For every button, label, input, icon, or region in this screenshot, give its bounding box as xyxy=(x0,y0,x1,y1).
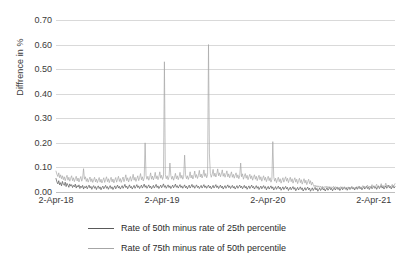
y-axis-tick-labels: 0.700.600.500.400.300.200.100.00 xyxy=(22,0,52,200)
y-axis-tick-label: 0.40 xyxy=(22,89,52,99)
legend-line-swatch xyxy=(88,228,114,229)
x-axis-line xyxy=(56,192,395,193)
series-lines xyxy=(56,20,395,192)
x-axis-tick-labels: 2-Apr-182-Apr-192-Apr-202-Apr-21 xyxy=(56,195,395,211)
chart-container: Diffrence in % 0.700.600.500.400.300.200… xyxy=(0,0,411,267)
y-axis-tick-label: 0.30 xyxy=(22,113,52,123)
y-axis-tick-label: 0.50 xyxy=(22,64,52,74)
chart-legend: Rate of 50th minus rate of 25th percenti… xyxy=(0,218,411,258)
series-line-1 xyxy=(56,178,395,191)
legend-item-label: Rate of 50th minus rate of 25th percenti… xyxy=(121,223,286,233)
y-axis-tick-label: 0.20 xyxy=(22,138,52,148)
x-axis-tick-label: 2-Apr-21 xyxy=(356,195,391,205)
x-axis-tick-label: 2-Apr-19 xyxy=(144,195,179,205)
plot-area xyxy=(56,20,395,192)
legend-item-label: Rate of 75th minus rate of 50th percenti… xyxy=(121,243,286,253)
y-axis-tick-label: 0.60 xyxy=(22,40,52,50)
legend-item-1[interactable]: Rate of 50th minus rate of 25th percenti… xyxy=(0,218,411,238)
legend-line-swatch xyxy=(88,248,114,249)
x-axis-tick-label: 2-Apr-18 xyxy=(38,195,73,205)
series-line-2 xyxy=(56,45,395,189)
x-axis-tick-label: 2-Apr-20 xyxy=(250,195,285,205)
y-axis-tick-label: 0.10 xyxy=(22,162,52,172)
legend-item-2[interactable]: Rate of 75th minus rate of 50th percenti… xyxy=(0,238,411,258)
y-axis-tick-label: 0.70 xyxy=(22,15,52,25)
